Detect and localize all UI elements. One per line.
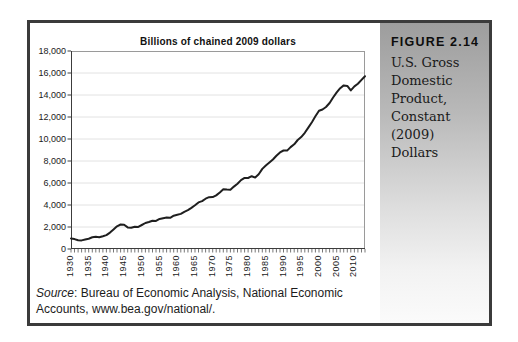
- x-tick-label: 1980: [242, 255, 252, 277]
- figure-caption-line: Dollars: [391, 144, 483, 162]
- y-tick-label: 4,000: [30, 200, 66, 210]
- x-tick-label: 1955: [154, 255, 164, 277]
- source-word: Source: [36, 286, 74, 300]
- figure-caption: U.S. GrossDomesticProduct,Constant (2009…: [391, 54, 483, 162]
- figure-number: FIGURE 2.14: [391, 35, 483, 49]
- x-tick-label: 1945: [118, 255, 128, 277]
- y-tick-label: 14,000: [30, 90, 66, 100]
- figure-frame: Billions of chained 2009 dollars 02,0004…: [27, 20, 492, 326]
- x-tick-label: 1940: [100, 255, 110, 277]
- x-tick-label: 2005: [331, 255, 341, 277]
- source-line-2: Accounts, www.bea.gov/national/.: [36, 302, 380, 318]
- y-tick-label: 2,000: [30, 222, 66, 232]
- y-tick-label: 16,000: [30, 68, 66, 78]
- y-tick-label: 18,000: [30, 46, 66, 56]
- source-note: Source: Bureau of Economic Analysis, Nat…: [36, 286, 380, 317]
- figure-caption-line: Constant (2009): [391, 108, 483, 144]
- x-tick-label: 1990: [278, 255, 288, 277]
- source-text: : Bureau of Economic Analysis, National …: [74, 286, 343, 300]
- figure-caption-line: Domestic: [391, 72, 483, 90]
- source-line-1: Source: Bureau of Economic Analysis, Nat…: [36, 286, 380, 302]
- x-tick-label: 1965: [189, 255, 199, 277]
- y-tick-label: 10,000: [30, 134, 66, 144]
- x-tick-label: 2010: [348, 255, 358, 277]
- x-tick-label: 1930: [65, 255, 75, 277]
- chart-title: Billions of chained 2009 dollars: [71, 36, 365, 47]
- y-tick-label: 8,000: [30, 156, 66, 166]
- x-tick-label: 1975: [224, 255, 234, 277]
- figure-sidebar: FIGURE 2.14 U.S. GrossDomesticProduct,Co…: [380, 23, 489, 323]
- x-tick-label: 1960: [171, 255, 181, 277]
- figure-panel: Billions of chained 2009 dollars 02,0004…: [0, 0, 518, 342]
- x-tick-label: 1995: [295, 255, 305, 277]
- y-tick-label: 0: [30, 244, 66, 254]
- figure-caption-line: U.S. Gross: [391, 54, 483, 72]
- figure-caption-line: Product,: [391, 90, 483, 108]
- x-tick-label: 1985: [260, 255, 270, 277]
- y-tick-label: 6,000: [30, 178, 66, 188]
- x-tick-label: 1970: [207, 255, 217, 277]
- x-tick-label: 1950: [136, 255, 146, 277]
- x-tick-label: 1935: [83, 255, 93, 277]
- gdp-line-plot: [71, 51, 365, 249]
- y-tick-label: 12,000: [30, 112, 66, 122]
- x-tick-label: 2000: [313, 255, 323, 277]
